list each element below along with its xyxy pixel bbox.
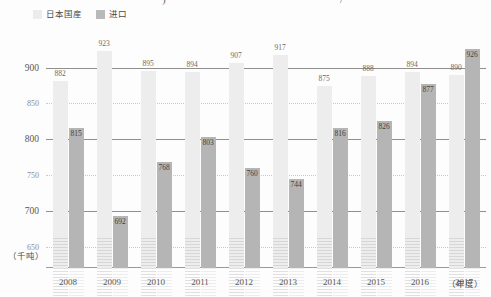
y-axis-tick-750: 750 <box>27 170 39 179</box>
bar-value-label-domestic-2016: 894 <box>406 61 417 69</box>
y-axis-tick-700: 700 <box>25 206 39 216</box>
legend-label-import: 进口 <box>109 10 127 19</box>
bar-domestic-2012[interactable]: 907 <box>229 63 244 268</box>
bar-domestic-2011[interactable]: 894 <box>185 72 200 268</box>
y-axis-tick-850: 850 <box>27 99 39 108</box>
bar-domestic-2013[interactable]: 917 <box>273 55 288 268</box>
bar-value-label-import-2009: 692 <box>114 218 125 226</box>
bar-import-2017[interactable]: 926 <box>465 49 480 268</box>
bar-value-label-import-2011: 803 <box>202 139 213 147</box>
legend-item-import[interactable]: 进口 <box>96 10 127 19</box>
bar-value-label-domestic-2015: 888 <box>362 65 373 73</box>
bar-domestic-2008[interactable]: 882 <box>53 81 68 268</box>
bar-value-label-import-2016: 877 <box>422 86 433 94</box>
bar-import-2011[interactable]: 803 <box>201 137 216 268</box>
bar-value-label-domestic-2008: 882 <box>54 70 65 78</box>
plot-area: 9008508007507006508828159236928957688948… <box>46 39 486 268</box>
bar-value-label-import-2015: 826 <box>378 123 389 131</box>
bar-import-2009[interactable]: 692 <box>113 216 128 268</box>
bar-group-2013: 917744 <box>273 39 304 268</box>
legend-item-domestic[interactable]: 日本国産 <box>33 10 82 19</box>
bar-domestic-2009[interactable]: 923 <box>97 51 112 268</box>
x-axis-tick-2011: 2011 <box>191 277 209 287</box>
x-axis-tick-2013: 2013 <box>279 277 297 287</box>
bar-group-2010: 895768 <box>141 39 172 268</box>
x-axis-tick-2014: 2014 <box>323 277 341 287</box>
y-axis-unit-label: （千吨） <box>8 249 44 261</box>
title-fragment-right: / <box>340 0 343 5</box>
bar-domestic-2016[interactable]: 894 <box>405 72 420 268</box>
x-axis-tick-2017: 2017 <box>455 277 473 287</box>
bar-import-2015[interactable]: 826 <box>377 121 392 268</box>
bar-group-2011: 894803 <box>185 39 216 268</box>
bar-value-label-import-2008: 815 <box>70 130 81 138</box>
bar-value-label-domestic-2011: 894 <box>186 61 197 69</box>
x-axis-tick-2016: 2016 <box>411 277 429 287</box>
bar-domestic-2010[interactable]: 895 <box>141 71 156 268</box>
bar-import-2008[interactable]: 815 <box>69 128 84 268</box>
bar-import-2010[interactable]: 768 <box>157 162 172 268</box>
bar-value-label-domestic-2013: 917 <box>274 44 285 52</box>
bar-group-2016: 894877 <box>405 39 436 268</box>
bar-import-2012[interactable]: 760 <box>245 168 260 268</box>
bar-group-2008: 882815 <box>53 39 84 268</box>
bar-import-2013[interactable]: 744 <box>289 179 304 268</box>
x-axis-tick-2015: 2015 <box>367 277 385 287</box>
legend-label-domestic: 日本国産 <box>46 10 82 19</box>
bar-value-label-domestic-2009: 923 <box>98 40 109 48</box>
x-axis-tick-2012: 2012 <box>235 277 253 287</box>
bar-value-label-import-2014: 816 <box>334 130 345 138</box>
bar-group-2009: 923692 <box>97 39 128 268</box>
bar-domestic-2017[interactable]: 890 <box>449 75 464 268</box>
bar-value-label-import-2017: 926 <box>466 51 477 59</box>
bar-group-2017: 890926 <box>449 39 480 268</box>
legend-swatch-import <box>96 10 105 19</box>
bar-value-label-import-2012: 760 <box>246 170 257 178</box>
legend-swatch-domestic <box>33 10 42 19</box>
y-axis-tick-900: 900 <box>25 63 39 73</box>
title-fragment-left: ) <box>162 0 166 5</box>
bar-domestic-2015[interactable]: 888 <box>361 76 376 268</box>
bar-value-label-domestic-2014: 875 <box>318 75 329 83</box>
y-axis-tick-800: 800 <box>25 134 39 144</box>
chart-legend: 日本国産进口 <box>33 10 127 19</box>
bar-import-2014[interactable]: 816 <box>333 128 348 268</box>
bar-group-2014: 875816 <box>317 39 348 268</box>
x-axis-tick-2008: 2008 <box>59 277 77 287</box>
bar-value-label-domestic-2010: 895 <box>142 60 153 68</box>
bar-value-label-import-2013: 744 <box>290 181 301 189</box>
bar-group-2015: 888826 <box>361 39 392 268</box>
x-axis-tick-2009: 2009 <box>103 277 121 287</box>
bar-value-label-domestic-2012: 907 <box>230 52 241 60</box>
bar-value-label-import-2010: 768 <box>158 164 169 172</box>
bar-domestic-2014[interactable]: 875 <box>317 86 332 268</box>
bar-group-2012: 907760 <box>229 39 260 268</box>
chart-screenshot: ) / 日本国産进口 90085080075070065088281592369… <box>0 0 491 297</box>
bar-value-label-domestic-2017: 890 <box>450 64 461 72</box>
x-axis-tick-2010: 2010 <box>147 277 165 287</box>
bar-import-2016[interactable]: 877 <box>421 84 436 268</box>
